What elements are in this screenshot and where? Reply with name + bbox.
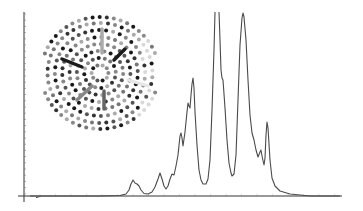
lattice-dot: [137, 29, 141, 33]
lattice-dot: [141, 43, 145, 47]
lattice-dot: [105, 66, 109, 70]
lattice-dot: [125, 21, 129, 25]
lattice-dot: [98, 127, 102, 131]
lattice-dot: [142, 34, 146, 38]
lattice-dot: [117, 102, 121, 106]
lattice-dot: [92, 43, 96, 47]
lattice-dot: [71, 121, 75, 125]
lattice-dot: [125, 105, 129, 109]
lattice-dot: [150, 45, 154, 49]
lattice-dot: [112, 125, 116, 129]
lattice-dot: [113, 23, 117, 27]
lattice-dot: [106, 22, 110, 26]
lattice-dot: [138, 51, 142, 55]
lattice-dot: [78, 110, 82, 114]
lattice-dot: [105, 15, 109, 19]
lattice-dot: [76, 117, 80, 121]
lattice-dot: [94, 93, 98, 97]
lattice-dot: [83, 119, 87, 123]
lattice-dot: [46, 97, 50, 101]
lattice-dot: [113, 76, 117, 80]
lattice-dot: [110, 105, 114, 109]
lattice-dot: [57, 52, 61, 56]
lattice-dot: [131, 110, 135, 114]
lattice-dot: [95, 79, 99, 83]
lattice-dot: [149, 82, 153, 86]
lattice-dot: [86, 61, 90, 65]
lattice-dot: [90, 71, 94, 75]
lattice-dot: [50, 103, 54, 107]
origin-mark: [36, 197, 42, 199]
lattice-dot: [75, 70, 79, 74]
lattice-dot: [118, 60, 122, 64]
lattice-dot: [90, 120, 94, 124]
lattice-dot: [59, 29, 63, 33]
lattice-dot: [112, 45, 116, 49]
lattice-dot: [136, 106, 140, 110]
spectrum-plot: [0, 0, 363, 211]
lattice-dot: [107, 91, 111, 95]
lattice-dot: [74, 44, 78, 48]
lattice-dot: [53, 72, 57, 76]
lattice-dot: [84, 17, 88, 21]
lattice-dot: [84, 125, 88, 129]
lattice-dot: [135, 96, 139, 100]
lattice-dot: [58, 91, 62, 95]
lattice-dot: [66, 32, 70, 36]
lattice-dot: [90, 99, 94, 103]
lattice-dot: [113, 112, 117, 116]
highlighted-bond: [128, 80, 148, 86]
lattice-dot: [132, 33, 136, 37]
lattice-dot: [134, 45, 138, 49]
lattice-dot: [103, 57, 107, 61]
lattice-dot: [60, 36, 64, 40]
lattice-dot: [105, 127, 109, 131]
lattice-dot: [92, 21, 96, 25]
lattice-dot: [119, 123, 123, 127]
lattice-dot: [78, 25, 82, 29]
lattice-dot: [106, 71, 110, 75]
lattice-dot: [55, 99, 59, 103]
lattice-dot: [140, 101, 144, 105]
lattice-dot: [122, 99, 126, 103]
lattice-dot: [109, 52, 113, 56]
lattice-dot: [108, 60, 112, 64]
lattice-dot: [112, 64, 116, 68]
lattice-dot: [121, 90, 125, 94]
lattice-dot: [142, 63, 146, 67]
lattice-dot: [145, 49, 149, 53]
lattice-dot: [79, 58, 83, 62]
lattice-dot: [77, 19, 81, 23]
lattice-dot: [104, 121, 108, 125]
lattice-dot: [150, 62, 154, 66]
lattice-dot: [112, 17, 116, 21]
lattice-dot: [127, 94, 131, 98]
lattice-dot: [86, 45, 90, 49]
lattice-dot: [125, 84, 129, 88]
lattice-dot: [122, 54, 126, 58]
lattice-dot: [83, 30, 87, 34]
lattice-dot: [47, 60, 51, 64]
lattice-dot: [128, 72, 132, 76]
lattice-dot: [91, 127, 95, 131]
lattice-dot: [60, 73, 64, 77]
lattice-dot: [62, 97, 66, 101]
lattice-dot: [93, 35, 97, 39]
lattice-dot: [79, 40, 83, 44]
lattice-dot: [131, 101, 135, 105]
curve-right: [219, 12, 340, 196]
lattice-dot: [52, 47, 56, 51]
spectrum-figure: [0, 0, 363, 211]
axes: [18, 12, 342, 202]
lattice-dot: [61, 47, 65, 51]
lattice-dot: [84, 97, 88, 101]
lattice-dot: [77, 124, 81, 128]
curve-left: [30, 12, 215, 196]
lattice-dot: [126, 121, 130, 125]
lattice-dot: [118, 117, 122, 121]
lattice-dot: [68, 77, 72, 81]
lattice-dot: [72, 106, 76, 110]
lattice-dot: [86, 37, 90, 41]
lattice-dot: [147, 103, 151, 107]
lattice-dot: [99, 86, 103, 90]
